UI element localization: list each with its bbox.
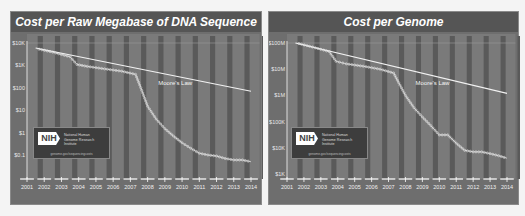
y-tick-label: $1K	[275, 171, 285, 177]
chart-panel-cost-per-megabase: Cost per Raw Megabase of DNA Sequence $1…	[10, 11, 262, 205]
x-tick-label: 2010	[176, 184, 188, 190]
grid-band	[158, 36, 163, 179]
y-tick-label: $100M	[269, 40, 285, 46]
x-tick-label: 2013	[484, 184, 496, 190]
grid-band	[467, 36, 472, 179]
grid-band	[399, 36, 404, 179]
x-tick-label: 2004	[73, 184, 85, 190]
y-tick-label: $100K	[269, 119, 285, 125]
x-tick-label: 2011	[450, 184, 462, 190]
grid-band	[227, 36, 232, 179]
chart-panel-cost-per-genome: Cost per Genome $100M$10M$1M$100K$10K$1K…	[268, 11, 519, 205]
grid-band	[382, 36, 387, 179]
grid-band	[244, 36, 249, 179]
nih-logo: NIH	[38, 132, 60, 145]
x-tick-label: 2004	[332, 184, 344, 190]
x-tick-label: 2005	[90, 184, 102, 190]
x-tick-label: 2001	[281, 184, 293, 190]
x-tick-label: 2009	[416, 184, 428, 190]
x-tick-label: 2001	[21, 184, 33, 190]
x-tick-label: 2010	[433, 184, 445, 190]
x-tick-label: 2013	[228, 184, 240, 190]
grid-band	[450, 36, 455, 179]
grid-band	[124, 36, 129, 179]
nih-logo-box: NIH National Human Genome Research Insti…	[291, 127, 368, 159]
x-tick-label: 2006	[365, 184, 377, 190]
moores-law-label: Moore's Law	[416, 80, 450, 86]
nih-logo: NIH	[296, 132, 318, 145]
x-tick-label: 2003	[55, 184, 67, 190]
grid-band	[416, 36, 421, 179]
y-tick-label: $10	[16, 107, 25, 113]
x-tick-label: 2007	[124, 184, 136, 190]
x-tick-label: 2005	[349, 184, 361, 190]
x-tick-label: 2012	[210, 184, 222, 190]
chart-plot-area: $100M$10M$1M$100K$10K$1K2001200220032004…	[269, 12, 520, 206]
x-tick-label: 2002	[298, 184, 310, 190]
y-tick-label: $10K	[272, 145, 285, 151]
x-tick-label: 2008	[141, 184, 153, 190]
x-tick-label: 2006	[107, 184, 119, 190]
nih-org-name: National Human Genome Research Institute	[322, 133, 362, 147]
y-tick-label: $10M	[271, 66, 285, 72]
y-tick-label: $1	[19, 130, 25, 136]
x-tick-label: 2011	[193, 184, 205, 190]
y-tick-label: $100	[13, 85, 25, 91]
nih-logo-box: NIH National Human Genome Research Insti…	[33, 127, 110, 159]
chart-plot-area: $10K$1K$100$10$1$0.120012002200320042005…	[11, 12, 263, 206]
x-tick-label: 2003	[315, 184, 327, 190]
x-tick-label: 2007	[382, 184, 394, 190]
grid-band	[176, 36, 181, 179]
grid-band	[433, 36, 438, 179]
grid-band	[517, 36, 520, 179]
moores-law-label: Moore's Law	[158, 80, 192, 86]
x-tick-label: 2009	[159, 184, 171, 190]
x-tick-label: 2014	[245, 184, 257, 190]
nih-url: genome.gov/sequencingcosts	[34, 152, 109, 156]
y-tick-label: $1K	[15, 62, 25, 68]
x-tick-label: 2002	[38, 184, 50, 190]
y-tick-label: $0.1	[14, 152, 25, 158]
grid-band	[193, 36, 198, 179]
grid-band	[262, 36, 263, 179]
y-tick-label: $10K	[12, 40, 25, 46]
nih-org-name: National Human Genome Research Institute	[64, 133, 104, 147]
grid-band	[484, 36, 489, 179]
y-tick-label: $1M	[274, 92, 285, 98]
x-tick-label: 2014	[501, 184, 513, 190]
nih-url: genome.gov/sequencingcosts	[292, 152, 367, 156]
grid-band	[141, 36, 146, 179]
x-tick-label: 2008	[399, 184, 411, 190]
grid-band	[210, 36, 215, 179]
x-tick-label: 2012	[467, 184, 479, 190]
